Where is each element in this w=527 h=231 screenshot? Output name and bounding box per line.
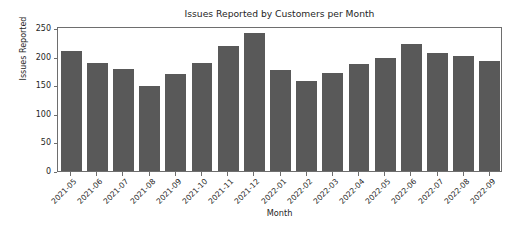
x-tick-mark bbox=[175, 172, 176, 176]
y-tick-mark bbox=[54, 58, 58, 59]
y-tick-label: 100 bbox=[36, 110, 51, 119]
y-tick-label: 250 bbox=[36, 24, 51, 33]
x-tick-mark bbox=[358, 172, 359, 176]
bar bbox=[113, 69, 134, 171]
x-tick-mark bbox=[410, 172, 411, 176]
chart-title: Issues Reported by Customers per Month bbox=[57, 8, 502, 19]
y-tick-mark bbox=[54, 86, 58, 87]
bar bbox=[349, 64, 370, 171]
x-tick-mark bbox=[201, 172, 202, 176]
x-tick-mark bbox=[227, 172, 228, 176]
x-tick-mark bbox=[70, 172, 71, 176]
x-tick-mark bbox=[437, 172, 438, 176]
bar bbox=[192, 63, 213, 171]
y-tick-label: 200 bbox=[36, 53, 51, 62]
bar bbox=[139, 86, 160, 171]
x-tick-mark bbox=[489, 172, 490, 176]
bar bbox=[270, 70, 291, 171]
x-tick-mark bbox=[306, 172, 307, 176]
bar bbox=[61, 51, 82, 171]
y-axis-label: Issues Reported bbox=[19, 0, 28, 109]
x-tick-mark bbox=[463, 172, 464, 176]
plot-area bbox=[57, 27, 502, 172]
x-tick-mark bbox=[149, 172, 150, 176]
y-tick-label: 0 bbox=[46, 167, 51, 176]
y-tick-mark bbox=[54, 29, 58, 30]
y-tick-mark bbox=[54, 143, 58, 144]
x-tick-mark bbox=[332, 172, 333, 176]
bar bbox=[87, 63, 108, 171]
bar bbox=[165, 74, 186, 171]
bar bbox=[401, 44, 422, 171]
y-tick-label: 50 bbox=[41, 138, 51, 147]
bar bbox=[322, 73, 343, 171]
y-tick-mark bbox=[54, 172, 58, 173]
bar bbox=[375, 58, 396, 171]
bar bbox=[453, 56, 474, 171]
bar bbox=[218, 46, 239, 171]
x-tick-mark bbox=[384, 172, 385, 176]
x-tick-mark bbox=[96, 172, 97, 176]
x-tick-mark bbox=[253, 172, 254, 176]
y-tick-mark bbox=[54, 115, 58, 116]
x-tick-mark bbox=[122, 172, 123, 176]
x-tick-mark bbox=[280, 172, 281, 176]
bar bbox=[479, 61, 500, 171]
bar bbox=[296, 81, 317, 171]
chart-figure: Issues Reported by Customers per Month I… bbox=[0, 0, 527, 231]
bar bbox=[244, 33, 265, 171]
bar bbox=[427, 53, 448, 171]
x-axis-label: Month bbox=[57, 208, 502, 218]
y-tick-label: 150 bbox=[36, 81, 51, 90]
